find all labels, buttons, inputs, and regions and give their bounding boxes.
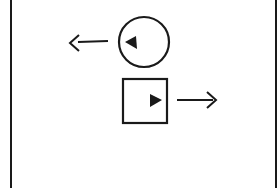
left-arrow-shaft: [78, 41, 108, 42]
circle-object: [119, 17, 169, 67]
triangle-right-icon: [150, 94, 162, 107]
square-object: [123, 79, 167, 123]
left-arrow: [70, 35, 108, 51]
right-arrow: [177, 92, 216, 108]
triangle-left-icon: [125, 36, 137, 49]
square-outline: [123, 79, 167, 123]
arrow-left-icon: [70, 35, 79, 51]
diagram-canvas: [0, 0, 279, 188]
